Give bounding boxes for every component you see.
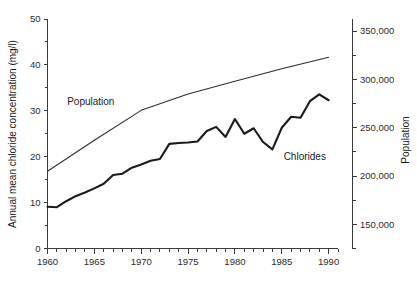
- x-tick-label: 1985: [271, 256, 292, 267]
- y-tick-label: 0: [35, 243, 40, 254]
- x-tick-label: 1960: [37, 256, 58, 267]
- left-axis-ticks: [44, 19, 48, 249]
- left-axis: 01020304050 Annual mean chloride concent…: [7, 13, 48, 254]
- left-axis-tick-labels: 01020304050: [30, 13, 41, 254]
- y-tick-label: 30: [30, 105, 41, 116]
- y-tick-label: 20: [30, 151, 41, 162]
- x-tick-label: 1975: [177, 256, 198, 267]
- right-axis-ticks: [353, 31, 358, 248]
- right-axis-tick-labels: 150,000200,000250,000300,000350,000: [360, 25, 394, 229]
- y-tick-label: 10: [30, 197, 41, 208]
- annotation-population: Population: [67, 96, 114, 107]
- annotation-chlorides: Chlorides: [284, 151, 326, 162]
- y2-tick-label: 300,000: [360, 74, 394, 85]
- y-tick-label: 40: [30, 59, 41, 70]
- x-tick-label: 1970: [131, 256, 152, 267]
- chart-figure: 01020304050 Annual mean chloride concent…: [0, 0, 417, 286]
- y-tick-label: 50: [30, 13, 41, 24]
- bottom-axis: 1960196519701975198019851990: [37, 249, 339, 268]
- left-axis-title: Annual mean chloride concentration (mg/l…: [7, 40, 18, 228]
- x-tick-label: 1990: [318, 256, 339, 267]
- y2-tick-label: 350,000: [360, 25, 394, 36]
- y2-tick-label: 150,000: [360, 219, 394, 230]
- y2-tick-label: 250,000: [360, 122, 394, 133]
- x-tick-label: 1980: [224, 256, 245, 267]
- chart-canvas: 01020304050 Annual mean chloride concent…: [0, 0, 417, 286]
- x-tick-label: 1965: [84, 256, 105, 267]
- y2-tick-label: 200,000: [360, 170, 394, 181]
- right-axis-title: Population: [400, 116, 411, 163]
- data-series: [48, 57, 329, 207]
- series-annotations: PopulationChlorides: [67, 96, 326, 163]
- bottom-axis-tick-labels: 1960196519701975198019851990: [37, 256, 339, 267]
- right-axis: 150,000200,000250,000300,000350,000 Popu…: [353, 19, 412, 249]
- bottom-axis-ticks: [48, 249, 339, 254]
